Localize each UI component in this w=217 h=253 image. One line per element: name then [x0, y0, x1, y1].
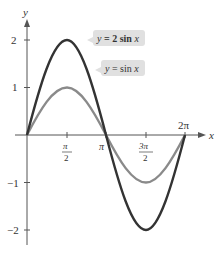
sine-chart: y x 2 1 −1 −2 π 2 π 3π 2 2π y = 2 sin x … [0, 0, 217, 253]
annotation-sin-x: y = sin x [95, 60, 145, 76]
x-tick-pi-half: π 2 [62, 141, 72, 163]
y-axis-arrow-icon [24, 19, 30, 27]
y-axis-label: y [22, 6, 28, 18]
x-axis-label: x [208, 129, 214, 141]
axes [15, 19, 206, 245]
svg-text:y = 2 sin x: y = 2 sin x [96, 33, 139, 44]
svg-text:2: 2 [143, 153, 148, 163]
svg-text:2: 2 [64, 153, 69, 163]
annotation-2sin-x: y = 2 sin x [87, 30, 145, 46]
y-tick-neg1: −1 [7, 177, 19, 189]
x-tick-3pi-half: 3π 2 [138, 141, 153, 163]
x-axis-arrow-icon [198, 132, 206, 138]
svg-text:y = sin x: y = sin x [104, 63, 139, 74]
svg-text:3π: 3π [138, 141, 149, 151]
x-tick-pi: π [99, 141, 105, 152]
x-tick-2pi: 2π [178, 119, 190, 131]
svg-text:π: π [63, 141, 68, 151]
y-tick-1: 1 [12, 81, 18, 93]
y-tick-neg2: −2 [7, 224, 19, 236]
y-tick-2: 2 [11, 34, 17, 46]
